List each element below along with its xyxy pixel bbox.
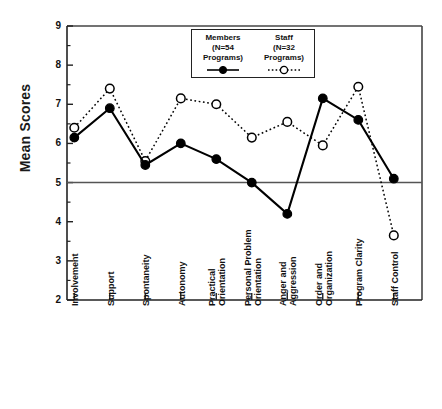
legend-members-title: Members xyxy=(194,33,252,43)
data-point xyxy=(177,94,186,103)
y-tick-label: 5 xyxy=(41,177,61,188)
y-tick-label: 9 xyxy=(41,20,61,31)
y-tick-label: 3 xyxy=(41,255,61,266)
legend-staff-title: Staff xyxy=(255,33,313,43)
x-tick-label: Autonomy xyxy=(177,262,187,307)
y-axis-title: Mean Scores xyxy=(17,73,33,183)
data-point xyxy=(141,161,150,170)
y-tick-label: 7 xyxy=(41,98,61,109)
data-point xyxy=(106,104,115,113)
data-point xyxy=(319,94,328,103)
data-point xyxy=(283,118,292,127)
data-point xyxy=(354,82,363,91)
chart-legend: Members (N=54 Programs) Staff (N=32 Prog… xyxy=(191,29,315,78)
legend-sample-members xyxy=(194,64,252,76)
x-tick-label: Anger andAggression xyxy=(278,256,298,306)
y-tick-label: 4 xyxy=(41,216,61,227)
x-axis-ticks xyxy=(74,293,394,300)
y-tick-label: 8 xyxy=(41,59,61,70)
legend-entry-staff: Staff (N=32 Programs) xyxy=(255,33,313,63)
x-tick-label: Support xyxy=(106,272,116,307)
x-tick-label: Program Clarity xyxy=(354,238,364,306)
data-point xyxy=(319,141,328,150)
legend-sample-staff xyxy=(255,64,313,76)
data-point xyxy=(212,100,221,109)
series-staff xyxy=(70,82,398,239)
data-point xyxy=(248,178,257,187)
data-point xyxy=(390,174,399,183)
data-point xyxy=(70,133,79,142)
data-point xyxy=(390,231,399,240)
legend-entry-members: Members (N=54 Programs) xyxy=(194,33,252,63)
x-tick-label: Personal ProblemOrientation xyxy=(243,229,263,306)
chart-figure: Mean Scores 23456789 InvolvementSupportS… xyxy=(0,0,442,409)
x-tick-label: Involvement xyxy=(70,253,80,306)
legend-staff-line2: Programs) xyxy=(255,53,313,63)
data-point xyxy=(212,155,221,164)
data-point xyxy=(283,210,292,219)
x-tick-label: Order andOrganization xyxy=(314,251,334,306)
x-tick-label: PracticalOrientation xyxy=(207,258,227,306)
data-point xyxy=(70,124,79,133)
y-tick-label: 6 xyxy=(41,137,61,148)
data-point xyxy=(177,139,186,148)
legend-staff-line1: (N=32 xyxy=(255,43,313,53)
y-tick-label: 2 xyxy=(41,294,61,305)
legend-members-line1: (N=54 xyxy=(194,43,252,53)
data-point xyxy=(106,84,115,93)
data-point xyxy=(248,133,257,142)
series-members xyxy=(70,94,398,218)
data-point xyxy=(354,116,363,125)
x-tick-label: Staff Control xyxy=(390,252,400,307)
x-tick-label: Spontaneity xyxy=(141,254,151,306)
legend-members-line2: Programs) xyxy=(194,53,252,63)
